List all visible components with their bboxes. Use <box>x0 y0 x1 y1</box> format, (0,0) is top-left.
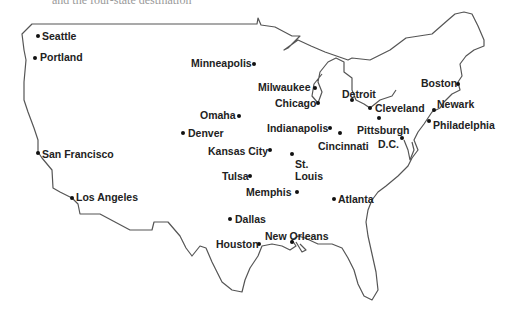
city-dot-memphis <box>295 190 299 194</box>
city-label-dallas: Dallas <box>235 213 266 225</box>
city-label-cleveland: Cleveland <box>375 102 425 114</box>
city-dot-minneapolis <box>252 62 256 66</box>
city-dot-los-angeles <box>70 196 74 200</box>
city-label-tulsa: Tulsa <box>222 170 249 182</box>
city-label-atlanta: Atlanta <box>338 193 374 205</box>
mississippi-delta-outline <box>296 242 306 252</box>
city-dot-atlanta <box>332 197 336 201</box>
city-label-new-orleans: New Orleans <box>265 230 329 242</box>
city-label-san-francisco: San Francisco <box>42 148 114 160</box>
great-lakes-outline <box>312 58 396 108</box>
city-dot-st-louis <box>290 152 294 156</box>
city-label-kansas-city: Kansas City <box>208 145 268 157</box>
city-dot-denver <box>181 131 185 135</box>
city-dot-kansas-city <box>268 148 272 152</box>
city-label-cincinnati: Cincinnati <box>318 140 369 152</box>
city-dot-milwaukee <box>313 86 317 90</box>
city-dot-indianapolis <box>328 126 332 130</box>
city-label-st-louis: St.Louis <box>295 158 323 182</box>
city-dot-philadelphia <box>427 119 431 123</box>
city-label-memphis: Memphis <box>246 186 292 198</box>
city-label-houston: Houston <box>216 238 259 250</box>
city-dot-cincinnati <box>338 131 342 135</box>
city-label-milwaukee: Milwaukee <box>258 81 311 93</box>
city-label-detroit: Detroit <box>342 88 376 100</box>
city-label-chicago: Chicago <box>275 97 316 109</box>
city-dot-d-c <box>400 136 404 140</box>
city-dot-newark <box>432 108 436 112</box>
city-dot-portland <box>33 56 37 60</box>
city-label-minneapolis: Minneapolis <box>191 57 252 69</box>
city-dot-san-francisco <box>36 151 40 155</box>
city-label-newark: Newark <box>437 98 474 110</box>
city-label-denver: Denver <box>188 127 224 139</box>
city-label-boston: Boston <box>421 77 457 89</box>
city-label-portland: Portland <box>40 51 83 63</box>
city-label-omaha: Omaha <box>200 109 236 121</box>
city-dot-chicago <box>316 101 320 105</box>
city-label-philadelphia: Philadelphia <box>433 119 495 131</box>
city-label-d-c: D.C. <box>378 138 399 150</box>
city-dot-dallas <box>228 217 232 221</box>
city-dot-cleveland <box>368 106 372 110</box>
city-dot-seattle <box>36 34 40 38</box>
city-label-los-angeles: Los Angeles <box>76 191 138 203</box>
city-dot-omaha <box>237 114 241 118</box>
city-label-pittsburgh: Pittsburgh <box>357 124 410 136</box>
city-label-indianapolis: Indianapolis <box>267 122 328 134</box>
city-dot-pittsburgh <box>377 116 381 120</box>
city-label-seattle: Seattle <box>42 30 76 42</box>
